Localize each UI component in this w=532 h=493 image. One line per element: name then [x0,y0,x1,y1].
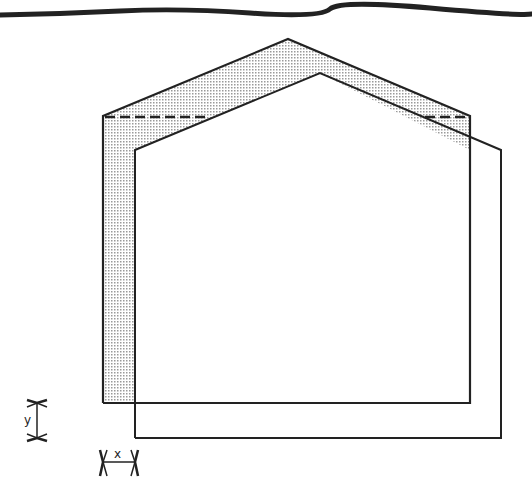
x-label: x [114,447,121,461]
y-dimension-marker: y [24,400,47,441]
x-dimension-marker: x [100,447,138,476]
y-label: y [24,413,31,427]
diagram-canvas: y x [0,0,532,493]
top-border-line [0,4,532,15]
house-offset-diagram: y x [0,0,532,493]
original-house-outline [103,39,470,403]
